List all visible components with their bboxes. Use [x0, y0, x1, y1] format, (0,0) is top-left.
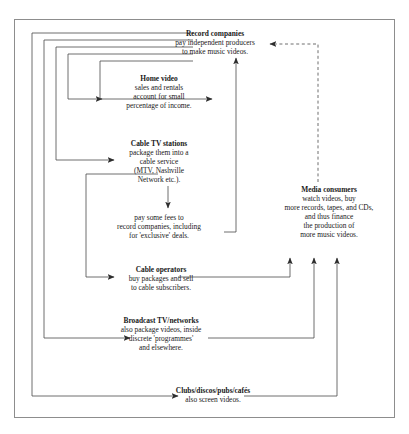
node-heading: Clubs/discos/pubs/cafés	[146, 386, 280, 395]
node-line: to make music videos.	[140, 47, 290, 56]
node-line: watch videos, buy	[262, 194, 396, 203]
node-line: and thus finance	[262, 212, 396, 221]
node-line: also package videos, inside	[96, 325, 226, 334]
node-line: more music videos.	[262, 230, 396, 239]
node-cable-tv-stations[interactable]: Cable TV stations package them into a ca…	[98, 139, 220, 184]
node-line: and elsewhere.	[96, 343, 226, 352]
node-clubs[interactable]: Clubs/discos/pubs/cafés also screen vide…	[146, 386, 280, 404]
node-line: cable service	[98, 157, 220, 166]
node-cable-operators[interactable]: Cable operators buy packages and sell to…	[100, 265, 222, 292]
node-line: more records, tapes, and CDs,	[262, 203, 396, 212]
node-line: percentage of income.	[100, 101, 218, 110]
node-heading: Cable TV stations	[98, 139, 220, 148]
node-heading: Cable operators	[100, 265, 222, 274]
node-line: (MTV, Nashville	[98, 166, 220, 175]
node-line: pay independent producers	[140, 38, 290, 47]
node-heading: Home video	[100, 74, 218, 83]
node-line: the production of	[262, 221, 396, 230]
node-line: package them into a	[98, 148, 220, 157]
node-line: buy packages and sell	[100, 274, 222, 283]
node-line: record companies, including	[94, 222, 224, 231]
node-broadcast-tv-networks[interactable]: Broadcast TV/networks also package video…	[96, 316, 226, 352]
node-fees[interactable]: pay some fees to record companies, inclu…	[94, 213, 224, 240]
node-heading: Media consumers	[262, 185, 396, 194]
node-line: account for small	[100, 92, 218, 101]
node-record-companies[interactable]: Record companies pay independent produce…	[140, 29, 290, 56]
node-line: Network etc.).	[98, 175, 220, 184]
node-line: pay some fees to	[94, 213, 224, 222]
node-heading: Record companies	[140, 29, 290, 38]
node-line: to cable subscribers.	[100, 283, 222, 292]
node-home-video[interactable]: Home video sales and rentals account for…	[100, 74, 218, 110]
node-heading: Broadcast TV/networks	[96, 316, 226, 325]
node-line: discrete 'programmes'	[96, 334, 226, 343]
node-line: sales and rentals	[100, 83, 218, 92]
node-media-consumers[interactable]: Media consumers watch videos, buy more r…	[262, 185, 396, 239]
node-line: for 'exclusive' deals.	[94, 231, 224, 240]
node-line: also screen videos.	[146, 395, 280, 404]
